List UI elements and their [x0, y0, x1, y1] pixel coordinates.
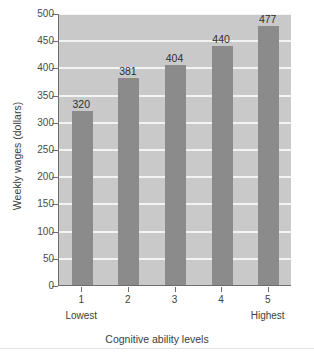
x-axis-tick-mark [81, 287, 82, 292]
bottom-divider [0, 348, 314, 349]
y-axis-tick-mark [52, 96, 58, 97]
x-axis-tick-mark [128, 287, 129, 292]
y-axis-tick-mark [52, 68, 58, 69]
y-axis-tick-label: 450 [20, 36, 54, 46]
bar[interactable] [165, 65, 186, 285]
bar-value-label: 381 [108, 65, 148, 77]
x-axis-tick-mark [175, 287, 176, 292]
y-axis-title: Weekly wages (dollars) [11, 76, 23, 236]
figure-canvas: 500450400350300250200150100500 Weekly wa… [0, 0, 314, 354]
y-axis-tick-mark [52, 204, 58, 205]
bar[interactable] [212, 46, 233, 285]
x-axis-tick-label: 5 [248, 294, 288, 305]
bar[interactable] [258, 26, 279, 285]
bar-value-label: 440 [201, 33, 241, 45]
y-axis-tick-mark [52, 41, 58, 42]
x-axis-tick-mark [221, 287, 222, 292]
bar-value-label: 404 [155, 52, 195, 64]
y-axis-tick-label: 400 [20, 63, 54, 73]
y-axis-tick-mark [52, 14, 58, 15]
gridline [59, 40, 291, 42]
y-axis-tick-mark [52, 150, 58, 151]
bar[interactable] [72, 111, 93, 285]
y-axis-tick-mark [52, 123, 58, 124]
y-axis-tick-label: 350 [20, 91, 54, 101]
x-axis-tick-mark [268, 287, 269, 292]
y-axis-tick-mark [52, 259, 58, 260]
y-axis-tick-mark [52, 232, 58, 233]
y-axis-tick-label: 500 [20, 9, 54, 19]
y-axis-tick-mark [52, 286, 58, 287]
bar-value-label: 477 [248, 13, 288, 25]
x-axis-tick-label: 3 [155, 294, 195, 305]
y-axis-tick-label: 150 [20, 199, 54, 209]
y-axis-tick-label: 0 [20, 281, 54, 291]
y-axis-tick-label: 300 [20, 118, 54, 128]
x-axis-title: Cognitive ability levels [0, 333, 314, 345]
x-axis-tick-label: 4 [201, 294, 241, 305]
y-axis-tick-label: 250 [20, 145, 54, 155]
y-axis-tick-label: 50 [20, 254, 54, 264]
bar-value-label: 320 [61, 98, 101, 110]
x-axis-extreme-label: Lowest [46, 310, 116, 321]
bar[interactable] [118, 78, 139, 285]
y-axis-tick-label: 200 [20, 172, 54, 182]
x-axis-tick-label: 1 [61, 294, 101, 305]
y-axis-tick-mark [52, 177, 58, 178]
x-axis-extreme-label: Highest [233, 310, 303, 321]
y-axis-tick-label: 100 [20, 227, 54, 237]
x-axis-tick-label: 2 [108, 294, 148, 305]
